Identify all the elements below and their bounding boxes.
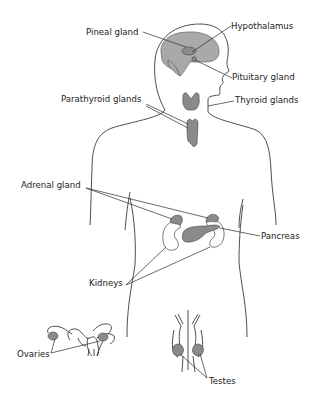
ovary-right [98,333,108,341]
label-pancreas: Pancreas [261,231,300,241]
label-thyroid-glands: Thyroid glands [234,95,299,105]
label-testes: Testes [208,376,236,386]
testis-left [173,344,184,356]
label-ovaries: Ovaries [17,349,50,359]
testes-region [172,310,203,372]
parathyroid-glands [187,119,198,146]
brain [161,32,219,76]
kidney-right [207,219,225,247]
label-adrenal-gland: Adrenal gland [21,180,81,190]
label-kidneys: Kidneys [89,278,123,288]
label-pineal-gland: Pineal gland [86,27,139,37]
endocrine-diagram: Pineal gland Hypothalamus Pituitary glan… [0,0,315,402]
kidney-left [163,222,181,250]
label-hypothalamus: Hypothalamus [231,21,294,31]
label-pituitary-gland: Pituitary gland [232,72,295,82]
ovary-left [48,332,58,340]
thyroid-gland [183,93,200,110]
leader-lines [51,26,260,378]
label-parathyroid-glands: Parathyroid glands [61,94,142,104]
testis-right [193,344,204,356]
